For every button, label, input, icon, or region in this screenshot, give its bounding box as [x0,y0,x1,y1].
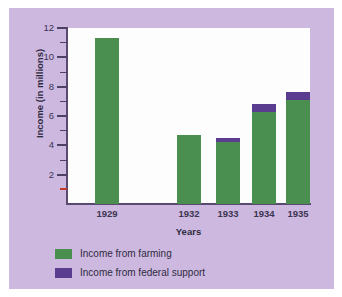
x-axis-tick-label-1935: 1935 [278,208,318,219]
y-axis-red-marker-tick [60,188,67,190]
bar-segment-farming-1934 [252,112,276,204]
y-axis-minor-tick [60,42,67,43]
bar-segment-farming-1935 [286,100,310,204]
bar-stack [216,138,240,204]
bar-1929 [95,28,119,204]
legend-item-federal-support: Income from federal support [55,265,315,281]
y-axis-minor-tick [60,72,67,73]
bar-segment-farming-1933 [216,142,240,204]
y-axis-minor-tick [60,130,67,131]
y-axis-tick-label-text: 2 [29,170,54,180]
bar-segment-federal-1935 [286,92,310,100]
y-axis-title: Income (in millions) [34,34,45,154]
chart-panel: 24681012 Income (in millions) 1929193219… [9,8,334,289]
bar-stack [95,38,119,204]
legend-swatch-icon [55,249,72,259]
bar-1935 [286,28,310,204]
x-axis-tick-label-1929: 1929 [87,208,127,219]
legend-item-farming: Income from farming [55,246,315,262]
y-axis-minor-tick [60,101,67,102]
y-axis-major-tick [57,144,67,146]
bar-stack [252,104,276,204]
x-axis-tick-label-1933: 1933 [208,208,248,219]
legend-swatch-icon [55,268,72,278]
bar-1932 [177,28,201,204]
x-axis-tick-label-1932: 1932 [169,208,209,219]
y-axis-major-tick [57,56,67,58]
y-axis-tick-label: 12 [29,23,54,33]
legend-label: Income from federal support [80,268,205,278]
bar-segment-farming-1929 [95,38,119,204]
bar-1933 [216,28,240,204]
y-axis-major-tick [57,174,67,176]
bar-segment-federal-1934 [252,104,276,111]
y-axis-major-tick [57,27,67,29]
y-axis-major-tick [57,115,67,117]
bar-stack [286,92,310,204]
y-axis-major-tick [57,86,67,88]
y-axis-tick-label: 2 [29,170,54,180]
bar-1934 [252,28,276,204]
bar-segment-farming-1932 [177,135,201,204]
bar-stack [177,135,201,204]
x-axis-title: Years [67,226,310,237]
y-axis-minor-tick [60,160,67,161]
y-axis-tick-label-text: 12 [29,23,54,33]
chart-figure: 24681012 Income (in millions) 1929193219… [0,0,342,297]
legend-label: Income from farming [80,249,172,259]
chart-legend: Income from farmingIncome from federal s… [55,246,315,284]
